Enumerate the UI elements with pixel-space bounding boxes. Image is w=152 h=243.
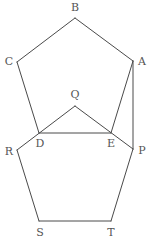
edge-EA: [111, 61, 133, 133]
labels-group: A B C D E P Q R S T: [5, 1, 147, 239]
edge-BC: [17, 18, 75, 62]
point-label-S: S: [36, 226, 44, 239]
point-label-E: E: [107, 137, 115, 150]
point-label-A: A: [137, 55, 147, 68]
edge-RS: [17, 150, 39, 221]
edge-AB: [75, 18, 133, 61]
edge-QR: [17, 106, 75, 150]
edges-group: [17, 18, 133, 221]
point-label-C: C: [5, 55, 13, 68]
pentagon-diagram: A B C D E P Q R S T: [0, 0, 152, 243]
point-label-T: T: [107, 226, 115, 239]
point-label-R: R: [5, 145, 14, 158]
point-label-Q: Q: [70, 88, 79, 101]
edge-CD: [17, 62, 39, 133]
edge-TP: [111, 149, 133, 221]
point-label-B: B: [71, 1, 79, 14]
point-label-D: D: [36, 137, 45, 150]
point-label-P: P: [138, 144, 146, 157]
edge-PQ: [75, 106, 133, 149]
